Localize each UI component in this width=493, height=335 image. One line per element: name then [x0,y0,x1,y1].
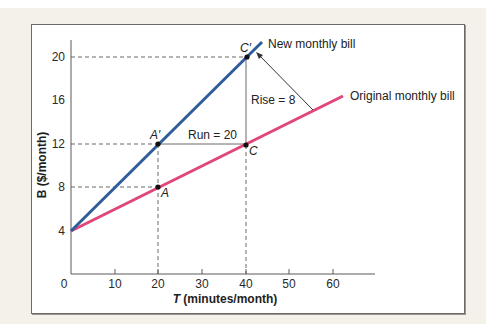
chart: A A′ C C′ Run = 20 Rise = 8 New monthly … [0,0,493,335]
x-tick-label: 40 [239,277,253,291]
y-tick-label: 4 [58,224,65,238]
original-bill-label: Original monthly bill [350,89,455,103]
point-C [243,142,248,147]
point-C-prime [244,54,249,59]
y-tick-label: 12 [52,137,66,151]
x-axis-title: T (minutes/month) [173,292,278,306]
x-tick-label: 20 [151,277,165,291]
reference-lines [71,57,246,274]
x-tick-label: 0 [61,277,68,291]
label-A-prime: A′ [149,128,161,142]
label-C: C [249,144,258,158]
y-tick-label: 16 [52,93,66,107]
point-A-prime [155,141,160,146]
rise-annotation: Rise = 8 [251,93,296,107]
data-points [155,54,249,189]
original-bill-line [71,96,343,231]
new-bill-label: New monthly bill [268,37,355,51]
x-axis-unit: (minutes/month) [180,292,277,306]
run-annotation: Run = 20 [188,128,237,142]
y-axis-title: B ($/month) [35,132,49,199]
y-tick-label: 8 [58,180,65,194]
y-tick-labels: 20 16 12 8 4 [52,50,66,238]
x-tick-labels: 0 10 20 30 40 50 60 [61,277,340,291]
x-tick-label: 60 [326,277,340,291]
label-A: A [160,186,169,200]
x-tick-label: 30 [195,277,209,291]
y-tick-label: 20 [52,50,66,64]
label-C-prime: C′ [240,41,252,55]
x-tick-label: 50 [282,277,296,291]
x-tick-label: 10 [108,277,122,291]
point-A [155,184,160,189]
